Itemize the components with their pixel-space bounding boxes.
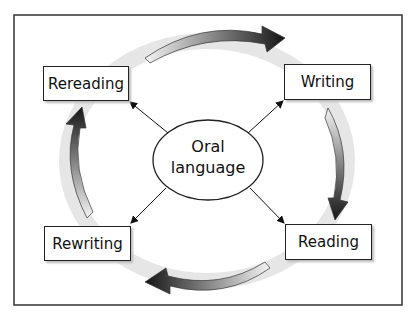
center-label-line2: language [153,157,263,178]
center-label: Oral language [153,136,263,178]
node-writing: Writing [284,64,371,100]
center-label-line1: Oral [153,136,263,157]
node-rewriting: Rewriting [44,226,131,261]
node-rereading: Rereading [43,66,129,101]
node-reading: Reading [285,224,372,260]
